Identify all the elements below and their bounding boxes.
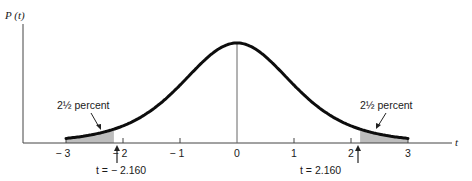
left-tail-label: 2½ percent [57,99,110,111]
y-axis-label: P (t) [4,9,25,22]
right-tail-leader [378,113,386,126]
x-tick-label: 0 [234,147,240,159]
x-tick-label: − 1 [170,147,185,159]
t-distribution-chart: P (t) t − 3− 2− 10123 2½ percent 2½ perc… [0,0,472,181]
x-tick-label: 2 [348,147,354,159]
right-tail-leader-arrowhead-icon [376,123,381,129]
x-tick-label: 3 [405,147,411,159]
left-tail-leader-arrowhead-icon [96,124,101,130]
x-tick-label: − 3 [56,147,71,159]
right-critical-label: t = 2.160 [300,164,341,176]
right-tail-label: 2½ percent [360,99,413,111]
x-axis-label: t [455,136,459,148]
x-tick-label: 1 [291,147,297,159]
left-critical-label: t = − 2.160 [96,164,146,176]
x-tick-label: − 2 [113,147,128,159]
right-critical-arrowhead-icon [355,145,361,151]
